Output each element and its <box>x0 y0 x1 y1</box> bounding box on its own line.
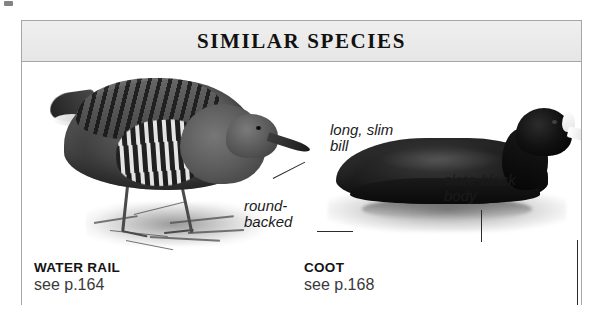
annotation-long-slim-bill: long, slim bill <box>330 122 393 154</box>
annotation-slate-black-body: slate-black body <box>444 172 516 204</box>
eye <box>552 120 557 124</box>
page-root: SIMILAR SPECIES <box>0 0 604 327</box>
leader-line-white-bill <box>577 240 578 305</box>
water-rail-illustration <box>30 64 292 264</box>
caption-water-rail: WATER RAIL see p.164 <box>34 260 120 294</box>
ground-shadow <box>86 202 262 246</box>
species-name-water-rail: WATER RAIL <box>34 260 120 275</box>
panel-header: SIMILAR SPECIES <box>22 21 581 62</box>
leader-line-round-backed <box>317 231 353 232</box>
leader-line-slate-black-body <box>481 210 482 242</box>
page-title: SIMILAR SPECIES <box>197 29 406 54</box>
similar-species-panel: SIMILAR SPECIES <box>21 20 582 305</box>
species-name-coot: COOT <box>304 260 374 275</box>
page-reference-water-rail[interactable]: see p.164 <box>34 276 120 294</box>
scan-artifact <box>4 1 13 6</box>
panel-body: long, slim bill round- backed slate-blac… <box>22 62 581 305</box>
back-sheen <box>380 146 502 172</box>
annotation-round-backed: round- backed <box>244 198 292 230</box>
eye <box>256 126 261 130</box>
page-reference-coot[interactable]: see p.168 <box>304 276 374 294</box>
caption-coot: COOT see p.168 <box>304 260 374 294</box>
